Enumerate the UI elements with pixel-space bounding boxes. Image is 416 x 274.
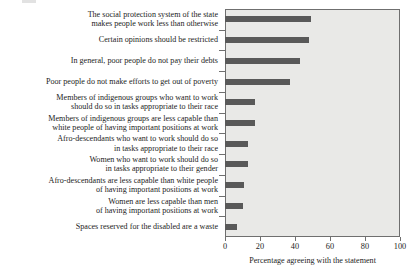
bar xyxy=(225,99,255,105)
category-label-slot: Afro-descendants are less capable than w… xyxy=(0,175,222,196)
category-label: Women who want to work should do so in t… xyxy=(89,155,218,174)
bar-slot xyxy=(225,30,400,51)
category-label-slot: Spaces reserved for the disabled are a w… xyxy=(0,216,222,237)
category-label: The social protection system of the stat… xyxy=(88,10,218,29)
category-label-slot: Women who want to work should do so in t… xyxy=(0,154,222,175)
bars-layer xyxy=(225,9,400,237)
category-label: Afro-descendants are less capable than w… xyxy=(49,176,218,195)
caption-remnant xyxy=(22,0,36,3)
category-label: In general, poor people do not pay their… xyxy=(71,56,218,65)
category-label-slot: In general, poor people do not pay their… xyxy=(0,50,222,71)
category-label: Afro-descendants who want to work should… xyxy=(57,134,218,153)
x-axis-tick-label: 80 xyxy=(361,241,369,252)
category-label-slot: The social protection system of the stat… xyxy=(0,9,222,30)
bar xyxy=(225,141,248,147)
bar-slot xyxy=(225,50,400,71)
bar xyxy=(225,182,244,188)
category-labels: The social protection system of the stat… xyxy=(0,9,222,237)
bar-slot xyxy=(225,175,400,196)
x-axis-title: Percentage agreeing with the statement xyxy=(225,256,400,265)
category-label-slot: Members of indigenous groups who want to… xyxy=(0,92,222,113)
bar-chart-figure: The social protection system of the stat… xyxy=(0,0,416,274)
category-label-slot: Poor people do not make efforts to get o… xyxy=(0,71,222,92)
category-label: Members of indigenous groups are less ca… xyxy=(48,114,218,133)
y-axis-tick xyxy=(219,50,225,51)
x-axis-tick-label: 100 xyxy=(394,241,406,252)
x-axis-tick-labels: 020406080100 xyxy=(225,241,400,253)
x-axis-tick-label: 60 xyxy=(326,241,334,252)
x-axis-tick-label: 20 xyxy=(256,241,264,252)
y-axis-tick xyxy=(219,71,225,72)
bar xyxy=(225,120,255,126)
bar-slot xyxy=(225,195,400,216)
bar xyxy=(225,161,248,167)
category-label: Members of indigenous groups who want to… xyxy=(56,93,218,112)
bar xyxy=(225,203,243,209)
category-label: Poor people do not make efforts to get o… xyxy=(46,77,218,86)
x-axis-tick-label: 0 xyxy=(223,241,227,252)
y-axis-tick xyxy=(219,133,225,134)
bar-slot xyxy=(225,71,400,92)
y-axis-tick xyxy=(219,113,225,114)
category-label-slot: Members of indigenous groups are less ca… xyxy=(0,113,222,134)
y-axis-tick xyxy=(219,92,225,93)
bar xyxy=(225,224,237,230)
x-axis-tick-label: 40 xyxy=(291,241,299,252)
bar xyxy=(225,16,311,22)
bar xyxy=(225,79,290,85)
bar-slot xyxy=(225,154,400,175)
bar-slot xyxy=(225,216,400,237)
y-axis-tick xyxy=(219,154,225,155)
y-axis-tick xyxy=(219,196,225,197)
y-axis-tick xyxy=(219,30,225,31)
category-label-slot: Women are less capable than men of havin… xyxy=(0,195,222,216)
category-label-slot: Afro-descendants who want to work should… xyxy=(0,133,222,154)
bar xyxy=(225,58,300,64)
bar xyxy=(225,37,309,43)
y-axis-tick xyxy=(219,216,225,217)
category-label: Certain opinions should be restricted xyxy=(99,35,218,44)
bar-slot xyxy=(225,9,400,30)
bar-slot xyxy=(225,113,400,134)
category-label: Women are less capable than men of havin… xyxy=(96,197,218,216)
bar-slot xyxy=(225,133,400,154)
y-axis-tick xyxy=(219,175,225,176)
bar-slot xyxy=(225,92,400,113)
category-label: Spaces reserved for the disabled are a w… xyxy=(76,222,218,231)
category-label-slot: Certain opinions should be restricted xyxy=(0,30,222,51)
